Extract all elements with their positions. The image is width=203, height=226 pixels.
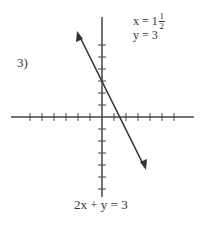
coordinate-graph <box>0 0 203 226</box>
x-solution: x = 1 1 2 <box>133 14 165 28</box>
equation-label: 2x + y = 3 <box>74 198 128 211</box>
fraction-denominator: 2 <box>160 22 165 31</box>
fraction-half: 1 2 <box>159 12 165 31</box>
x-solution-text: x = 1 <box>133 15 158 27</box>
solution-labels: x = 1 1 2 y = 3 <box>133 14 165 42</box>
graph-line <box>79 35 144 166</box>
fraction-numerator: 1 <box>160 12 165 21</box>
problem-number: 3) <box>17 56 28 69</box>
